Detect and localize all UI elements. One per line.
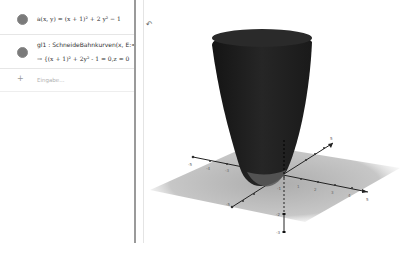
svg-text:-5: -5 [188, 162, 192, 167]
visibility-toggle-icon[interactable] [17, 14, 28, 25]
algebra-item-a[interactable]: a(x, y) = (x + 1)² + 2 y² − 1 [0, 4, 134, 35]
algebra-view: a(x, y) = (x + 1)² + 2 y² − 1 gl1 : Schn… [0, 0, 134, 253]
svg-text:-5: -5 [226, 202, 230, 207]
svg-text:5: 5 [366, 197, 369, 202]
graphics-3d-view[interactable]: -2 -3 -5 5 -5 -4 -3 1 2 3 4 5 -1 [144, 0, 413, 253]
svg-text:5: 5 [330, 136, 333, 141]
algebra-item-label: a(x, y) = (x + 1)² + 2 y² − 1 [37, 15, 121, 22]
svg-text:-2: -2 [276, 212, 280, 217]
algebra-item-label: gl1 : SchneideBahnkurven(x, E:= [37, 41, 136, 48]
svg-text:-3: -3 [225, 168, 229, 173]
plus-icon[interactable]: + [17, 74, 24, 83]
algebra-item-gl1[interactable]: gl1 : SchneideBahnkurven(x, E:= → {(x + … [0, 35, 134, 69]
svg-text:-3: -3 [276, 230, 280, 235]
input-bar[interactable]: + Eingabe... [0, 69, 134, 92]
input-placeholder[interactable]: Eingabe... [37, 77, 64, 83]
algebra-item-output: → {(x + 1)² + 2y² - 1 = 0,z = 0 [37, 55, 129, 62]
panel-divider[interactable] [134, 0, 136, 243]
visibility-toggle-icon[interactable] [17, 47, 28, 58]
svg-text:-1: -1 [277, 186, 281, 191]
svg-text:-4: -4 [206, 166, 210, 171]
